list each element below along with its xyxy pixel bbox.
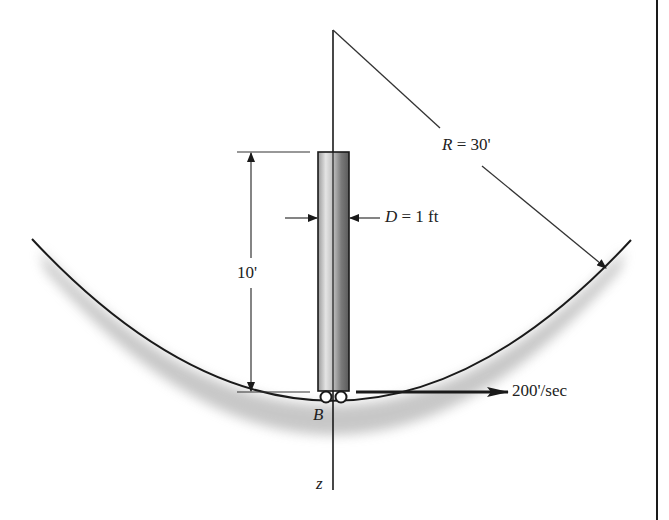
radius-label: R = 30' xyxy=(442,135,491,155)
diameter-label: D = 1 ft xyxy=(385,207,439,227)
radius-line xyxy=(333,30,440,128)
roller-left xyxy=(321,392,332,403)
radius-value: = 30' xyxy=(457,135,491,154)
radius-symbol: R xyxy=(442,135,452,154)
diameter-symbol: D xyxy=(385,207,397,226)
length-label: 10' xyxy=(237,263,257,283)
roller-right xyxy=(336,392,347,403)
velocity-label: 200'/sec xyxy=(512,381,567,401)
diagram-svg xyxy=(0,0,669,520)
point-b-label: B xyxy=(313,405,323,425)
radius-arrow-line xyxy=(482,166,606,268)
diameter-value: = 1 ft xyxy=(402,207,439,226)
diagram-canvas: R = 30' D = 1 ft 10' 200'/sec B z xyxy=(0,0,669,520)
z-axis-label: z xyxy=(316,474,323,494)
